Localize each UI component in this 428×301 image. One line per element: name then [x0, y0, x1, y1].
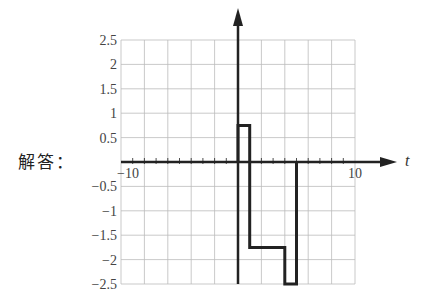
x-axis-label: t [405, 152, 410, 169]
x-tick-label: 10 [348, 166, 362, 181]
signal-line [238, 125, 297, 284]
y-tick-labels: 2.521.510.5−0.5−1−1.5−2−2.5 [92, 33, 117, 292]
y-tick-label: 2.5 [100, 33, 118, 48]
chart: 2.521.510.5−0.5−1−1.5−2−2.5 −1010 t [0, 0, 428, 301]
y-tick-label: 1.5 [100, 82, 118, 97]
y-tick-label: −2 [102, 253, 117, 268]
y-tick-label: 1 [110, 106, 117, 121]
y-tick-label: −0.5 [92, 179, 117, 194]
x-tick-label: −10 [117, 166, 139, 181]
y-tick-label: 2 [110, 57, 117, 72]
y-tick-label: 0.5 [100, 131, 118, 146]
y-tick-label: −2.5 [92, 277, 117, 292]
axes [121, 8, 397, 284]
y-tick-label: −1 [102, 204, 117, 219]
y-tick-label: −1.5 [92, 228, 117, 243]
x-tick-labels: −1010 [117, 166, 362, 181]
